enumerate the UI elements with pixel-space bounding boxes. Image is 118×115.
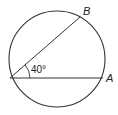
angle-label: 40° [31,64,46,75]
angle-arc [25,65,30,78]
circle [9,11,105,107]
point-a-label: A [105,72,113,84]
point-b-label: B [83,5,90,17]
circle-diagram: 40° B A [0,0,118,115]
